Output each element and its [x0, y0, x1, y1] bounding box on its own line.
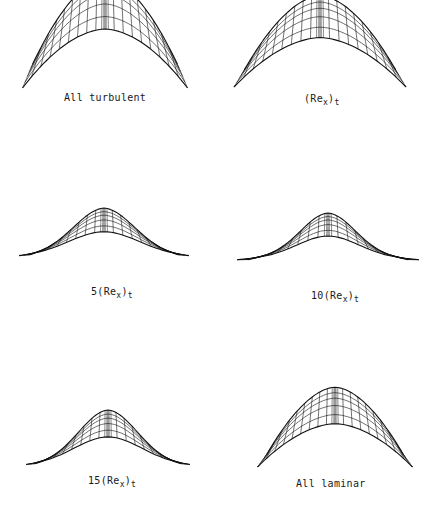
mesh-surface-all-laminar	[0, 0, 440, 507]
label-all-laminar: All laminar	[296, 478, 366, 489]
